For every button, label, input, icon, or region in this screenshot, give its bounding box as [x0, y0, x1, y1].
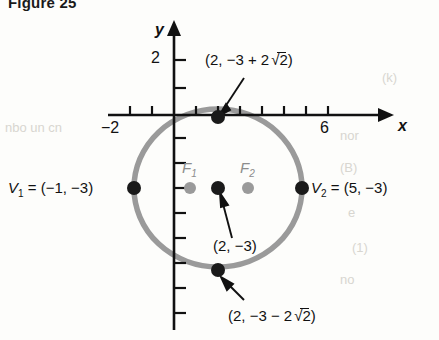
- radical-top: √2: [269, 52, 288, 67]
- point-top-dot: [211, 110, 225, 124]
- focus-2-subscript: 2: [249, 168, 255, 179]
- y-tick-label-2: 2: [151, 50, 160, 66]
- annotation-top-point-tail: ): [288, 51, 293, 68]
- vertex-2-dot: [295, 181, 309, 195]
- vertex-1-dot: [127, 181, 141, 195]
- annotation-bottom-point-tail: ): [311, 307, 316, 324]
- x-tick-label-neg2: −2: [101, 120, 119, 136]
- vertex-1-letter: V: [8, 179, 18, 196]
- annotation-top-point-text: (2, −3 + 2: [205, 51, 269, 68]
- annotation-top-point: (2, −3 + 2√2): [205, 52, 293, 67]
- vertex-1-equation: = (−1, −3): [24, 179, 94, 196]
- focus-1-letter: F: [182, 159, 191, 176]
- point-center-dot: [211, 181, 225, 195]
- focus-2-label: F2: [240, 160, 255, 179]
- point-bottom-dot: [211, 263, 225, 277]
- x-tick-label-6: 6: [320, 120, 329, 136]
- annotation-bottom-point-text: (2, −3 − 2: [228, 307, 292, 324]
- vertex-2-equation: = (5, −3): [327, 179, 388, 196]
- radical-vinculum-bottom: [300, 308, 309, 309]
- figure-container: nbo un cn (k) nor (B) e (1) no Figure 25: [0, 0, 439, 340]
- vertex-1-label: V1 = (−1, −3): [8, 180, 93, 199]
- x-axis-label: x: [398, 118, 407, 134]
- x-axis: [108, 106, 394, 122]
- radical-bottom: √2: [292, 308, 311, 323]
- vertex-2-label: V2 = (5, −3): [311, 180, 387, 199]
- focus-2-letter: F: [240, 159, 249, 176]
- annotation-center-point: (2, −3): [213, 238, 257, 253]
- focus-1-label: F1: [182, 160, 197, 179]
- radicand-top: 2: [279, 51, 287, 68]
- focus-1-dot: [184, 182, 196, 194]
- radical-vinculum-top: [277, 52, 286, 53]
- vertex-2-letter: V: [311, 179, 321, 196]
- annotation-bottom-point: (2, −3 − 2√2): [228, 308, 316, 323]
- y-axis-label: y: [155, 22, 164, 38]
- focus-1-subscript: 1: [191, 168, 197, 179]
- focus-2-dot: [242, 182, 254, 194]
- radicand-bottom: 2: [302, 307, 310, 324]
